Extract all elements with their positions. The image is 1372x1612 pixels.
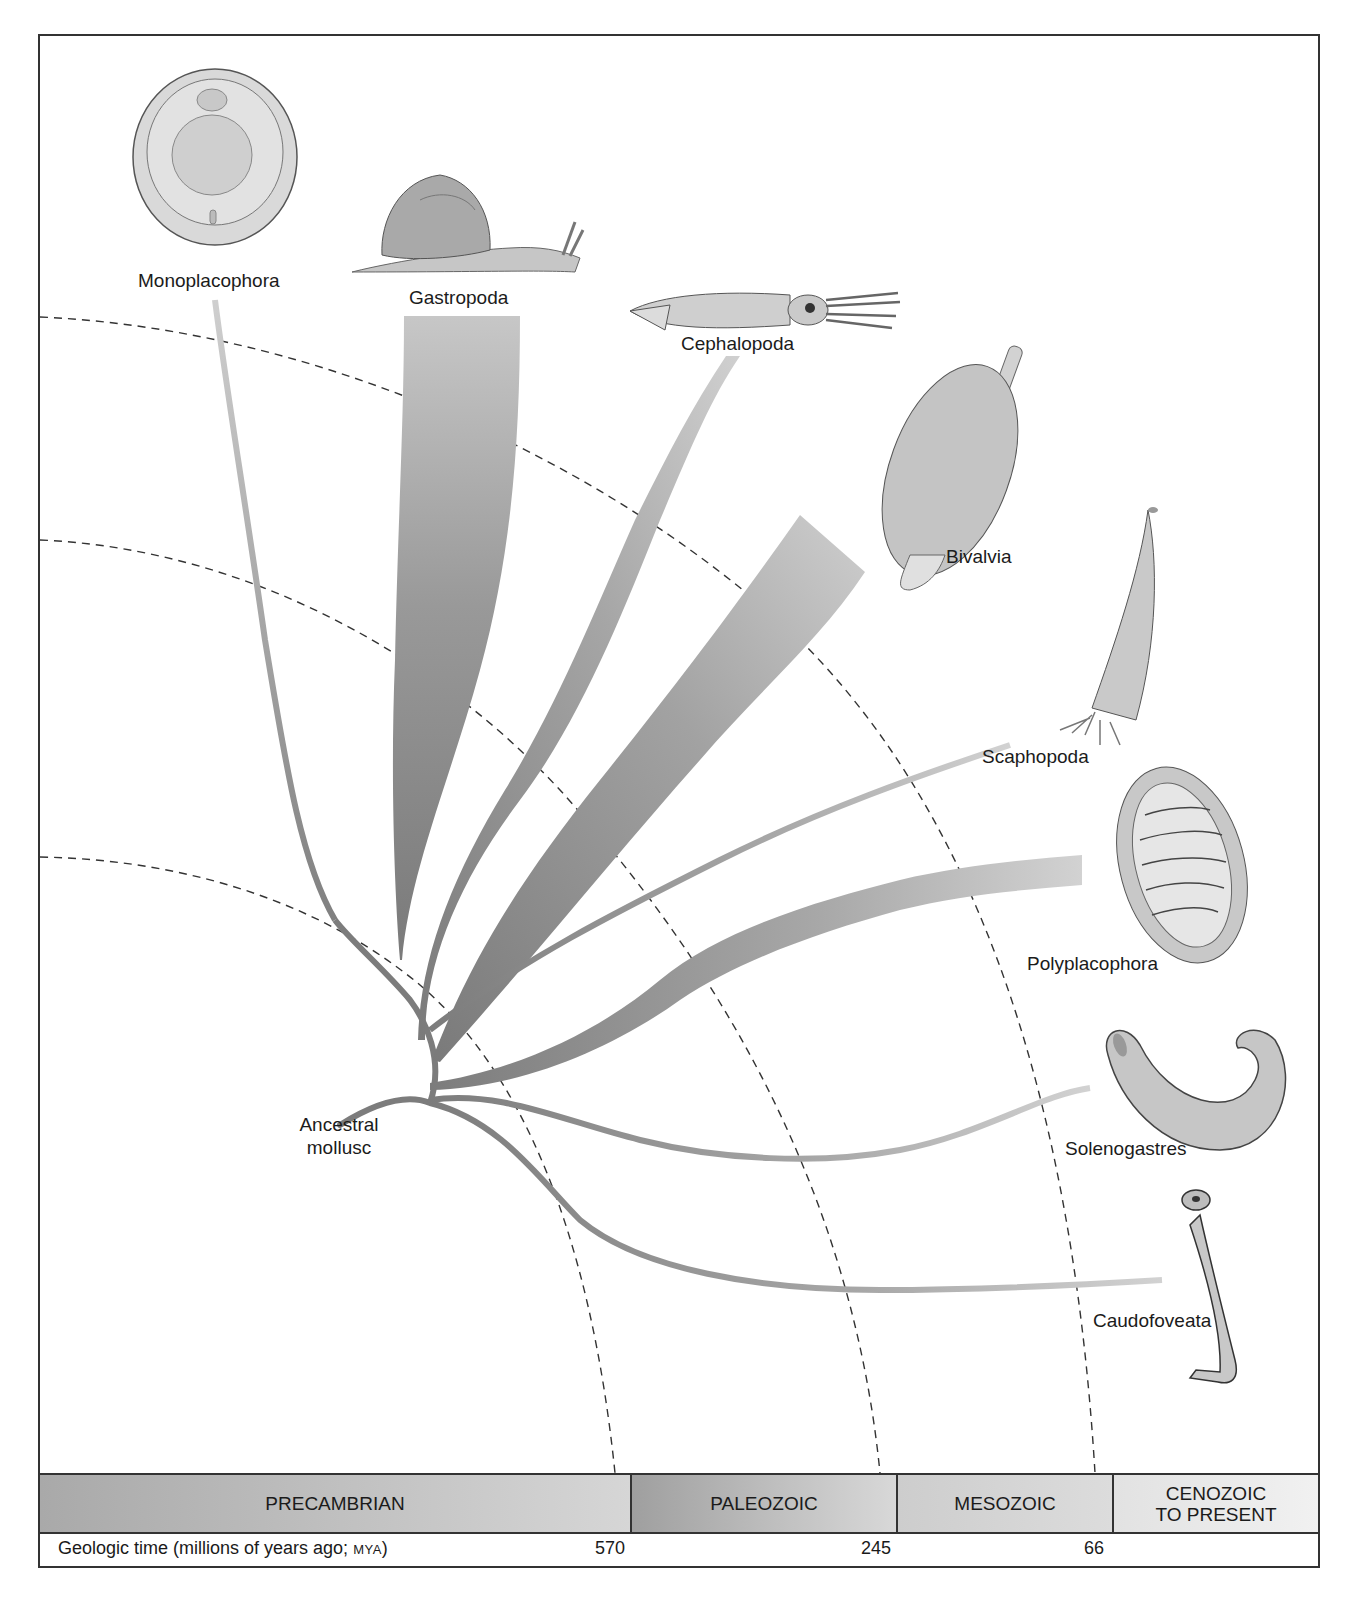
era-cenozoic-line2: TO PRESENT [1155, 1504, 1276, 1525]
timeline-caption: Geologic time (millions of years ago; MY… [58, 1538, 388, 1559]
root-label-line1: Ancestral [284, 1113, 394, 1136]
scaphopoda-illustration [1060, 507, 1158, 745]
era-precambrian: PRECAMBRIAN [40, 1475, 632, 1532]
label-polyplacophora: Polyplacophora [1027, 953, 1158, 975]
label-cephalopoda: Cephalopoda [681, 333, 794, 355]
branch-gastropoda [393, 316, 520, 960]
era-mesozoic: MESOZOIC [898, 1475, 1114, 1532]
gastropoda-illustration [352, 175, 583, 272]
label-ancestral-mollusc: Ancestral mollusc [284, 1113, 394, 1159]
caudofoveata-illustration [1182, 1190, 1236, 1383]
label-gastropoda: Gastropoda [409, 287, 508, 309]
phylogeny-tree [0, 0, 1372, 1612]
timeline-caption-end: ) [382, 1538, 388, 1558]
monoplacophora-illustration [133, 69, 297, 245]
label-monoplacophora: Monoplacophora [138, 270, 280, 292]
era-cenozoic: CENOZOIC TO PRESENT [1114, 1475, 1318, 1532]
label-bivalvia: Bivalvia [946, 546, 1011, 568]
tick-245: 245 [861, 1538, 891, 1559]
era-cenozoic-line1: CENOZOIC [1155, 1483, 1276, 1504]
label-solenogastres: Solenogastres [1065, 1138, 1186, 1160]
timeline-caption-text: Geologic time (millions of years ago; [58, 1538, 353, 1558]
timeline-caption-abbrev: MYA [353, 1542, 382, 1557]
geologic-era-band: PRECAMBRIAN PALEOZOIC MESOZOIC CENOZOIC … [40, 1473, 1318, 1534]
tick-66: 66 [1084, 1538, 1104, 1559]
era-paleozoic: PALEOZOIC [632, 1475, 898, 1532]
root-label-line2: mollusc [284, 1136, 394, 1159]
branch-solenogastres [430, 1088, 1090, 1159]
branch-monoplacophora [215, 300, 335, 920]
geologic-timeline: Geologic time (millions of years ago; MY… [40, 1531, 1318, 1566]
label-caudofoveata: Caudofoveata [1093, 1310, 1211, 1332]
solenogastres-illustration [1106, 1030, 1285, 1150]
polyplacophora-illustration [1096, 752, 1268, 977]
tick-570: 570 [595, 1538, 625, 1559]
label-scaphopoda: Scaphopoda [982, 746, 1089, 768]
cephalopoda-illustration [630, 293, 900, 330]
branch-caudofoveata [430, 1103, 1162, 1290]
